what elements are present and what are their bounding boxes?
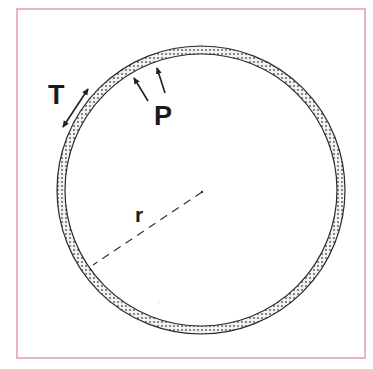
center-point	[201, 191, 203, 193]
speck	[158, 301, 159, 302]
cylinder-wall	[57, 46, 345, 334]
pressure-arrow-icon	[134, 78, 148, 101]
pressure-label: P	[154, 101, 172, 131]
pressure-arrow-icon	[157, 68, 165, 93]
tension-label: T	[48, 80, 65, 110]
radius-label: r	[135, 203, 143, 226]
figure-frame	[17, 9, 365, 358]
radius-line	[93, 192, 202, 265]
thin-walled-cylinder-diagram: T P r	[0, 0, 373, 369]
